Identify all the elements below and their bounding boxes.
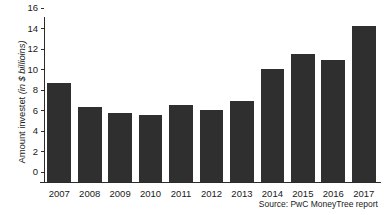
- bar-group: 2017: [352, 18, 376, 182]
- x-axis-tick-label: 2016: [323, 188, 344, 199]
- y-axis-tick: 6: [33, 106, 44, 116]
- y-axis-title-prefix: Amount investet: [16, 94, 27, 163]
- bar-group: 2015: [291, 18, 315, 182]
- x-axis-tick-label: 2015: [292, 188, 313, 199]
- y-axis-tick-label: 4: [33, 126, 41, 136]
- bar-chart-figure: Amount investet (in $ billioins) 0246810…: [0, 0, 384, 215]
- y-axis-tick: 12: [27, 44, 44, 54]
- y-axis-tick-label: 2: [33, 147, 41, 157]
- y-axis-title-unit: (in $ billioins): [16, 41, 27, 95]
- bar[interactable]: [78, 107, 102, 182]
- bar[interactable]: [139, 115, 163, 182]
- x-axis-tick-label: 2012: [201, 188, 222, 199]
- bar[interactable]: [261, 69, 285, 182]
- bar-group: 2010: [139, 18, 163, 182]
- y-axis-tick: 8: [33, 85, 44, 95]
- x-axis-tick-label: 2008: [79, 188, 100, 199]
- y-axis-tick-label: 0: [33, 167, 41, 177]
- bar-group: 2014: [261, 18, 285, 182]
- plot-area: 0246810121416 20072008200920102011201220…: [44, 18, 379, 182]
- y-axis-tick-mark: [41, 8, 44, 9]
- bar-group: 2013: [230, 18, 254, 182]
- x-axis-line: [40, 182, 381, 183]
- bar[interactable]: [321, 60, 345, 182]
- y-axis-tick-label: 10: [27, 65, 41, 75]
- bar[interactable]: [169, 105, 193, 182]
- y-axis-tick-label: 12: [27, 44, 41, 54]
- x-axis-tick-label: 2010: [140, 188, 161, 199]
- x-axis-tick-label: 2009: [110, 188, 131, 199]
- bar-group: 2012: [200, 18, 224, 182]
- bar-group: 2016: [321, 18, 345, 182]
- source-note: Source: PwC MoneyTree report: [259, 199, 378, 209]
- bar-group: 2008: [78, 18, 102, 182]
- y-axis-tick: 16: [27, 3, 44, 13]
- bar[interactable]: [352, 26, 376, 182]
- bar-group: 2011: [169, 18, 193, 182]
- y-axis-tick-label: 14: [27, 24, 41, 34]
- bar[interactable]: [291, 54, 315, 182]
- bar[interactable]: [230, 101, 254, 182]
- x-axis-tick-label: 2007: [49, 188, 70, 199]
- bar-group: 2009: [108, 18, 132, 182]
- y-axis-tick-label: 8: [33, 85, 41, 95]
- x-axis-tick-label: 2013: [231, 188, 252, 199]
- y-axis-tick-label: 6: [33, 106, 41, 116]
- y-axis-tick: 2: [33, 147, 44, 157]
- y-axis-tick-label: 16: [27, 3, 41, 13]
- y-axis-title: Amount investet (in $ billioins): [14, 14, 30, 190]
- x-axis-tick-label: 2014: [262, 188, 283, 199]
- bar-group: 2007: [47, 18, 71, 182]
- bar[interactable]: [47, 83, 71, 182]
- y-axis-tick: 4: [33, 126, 44, 136]
- bars-container: 2007200820092010201120122013201420152016…: [44, 18, 379, 182]
- x-axis-tick-label: 2011: [171, 188, 191, 199]
- y-axis-tick: 10: [27, 65, 44, 75]
- bar[interactable]: [108, 113, 132, 182]
- y-axis-tick: 0: [33, 167, 44, 177]
- bar[interactable]: [200, 110, 224, 182]
- x-axis-tick-label: 2017: [353, 188, 374, 199]
- y-axis-tick: 14: [27, 24, 44, 34]
